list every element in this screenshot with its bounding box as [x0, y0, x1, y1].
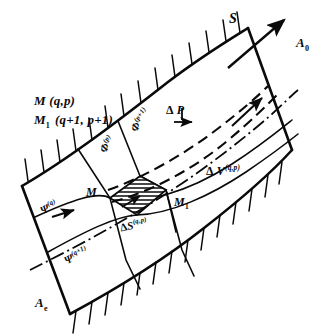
- label-node-M: M: [86, 186, 97, 198]
- label-delta-S-sup: (q,p): [132, 215, 147, 225]
- label-delta-P-prefix: Δ: [166, 103, 174, 117]
- label-delta-V: ΔV(q,p): [206, 164, 240, 177]
- label-M-qp: M (q,p): [34, 94, 75, 107]
- label-M1-q1p1: M1(q+1, p+1): [34, 113, 113, 130]
- stream-direction-arrow: [228, 20, 284, 68]
- label-node-M1: M1: [174, 196, 189, 211]
- tube-outline: [22, 28, 292, 314]
- label-M1-symbol: M: [34, 112, 46, 127]
- label-Ae: Ae: [35, 296, 48, 313]
- label-delta-V-sup: (q,p): [225, 163, 240, 172]
- label-A0-sub: 0: [305, 44, 309, 53]
- label-node-M1-base: M: [174, 195, 185, 209]
- band-flow-arrow: [232, 98, 262, 126]
- stream-tube-diagram: [0, 0, 332, 336]
- label-A0: A0: [296, 36, 309, 53]
- label-delta-V-symbol: V: [214, 164, 225, 178]
- label-delta-P: ΔP: [166, 104, 184, 116]
- label-Ae-base: A: [35, 295, 44, 310]
- label-S: S: [229, 12, 237, 26]
- inner-flow-arrow: [52, 210, 74, 217]
- label-Ae-sub: e: [44, 304, 48, 313]
- label-A0-base: A: [296, 35, 305, 50]
- label-M1-rest: (q+1, p+1): [50, 112, 113, 127]
- label-node-M1-sub: 1: [185, 202, 189, 211]
- figure-canvas: M (q,p) M1(q+1, p+1) S A0 Ae Φ(p) Φ(p+1)…: [0, 0, 332, 336]
- label-delta-P-symbol: P: [174, 103, 185, 117]
- label-delta-V-prefix: Δ: [206, 164, 214, 178]
